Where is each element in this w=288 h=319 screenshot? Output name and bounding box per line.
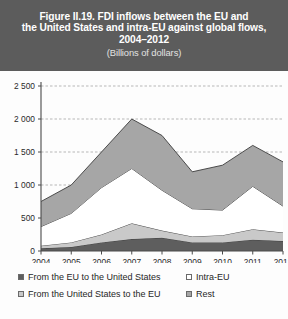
series-areas-group xyxy=(41,119,283,251)
legend-label-from-eu-to-us: From the EU to the United States xyxy=(28,272,161,282)
x-tick-2011: 2011 xyxy=(244,257,262,263)
x-tick-2010: 2010 xyxy=(213,257,232,263)
legend-item-intra-eu[interactable]: Intra-EU xyxy=(186,272,230,282)
y-tick-2500: 2 500 xyxy=(14,81,35,91)
y-tick-1000: 1 000 xyxy=(14,180,35,190)
legend-swatch-from-eu-to-us xyxy=(18,274,24,280)
chart-legend: From the EU to the United States Intra-E… xyxy=(0,266,288,306)
legend-item-rest[interactable]: Rest xyxy=(186,289,215,299)
chart-plot-area: 05001 0001 5002 0002 500 200420052006200… xyxy=(0,71,288,263)
x-tick-2004: 2004 xyxy=(32,257,51,263)
y-axis-tick-labels: 05001 0001 5002 0002 500 xyxy=(14,81,35,256)
figure-subtitle: (Billions of dollars) xyxy=(107,47,182,60)
legend-label-intra-eu: Intra-EU xyxy=(196,272,230,282)
x-axis-tick-labels: 200420052006200720082009201020112012 xyxy=(32,257,288,263)
figure-title-line-3: 2004–2012 xyxy=(119,34,169,46)
legend-swatch-intra-eu xyxy=(186,274,192,280)
x-tick-2006: 2006 xyxy=(92,257,111,263)
y-tick-1500: 1 500 xyxy=(14,147,35,157)
legend-row-1: From the EU to the United States Intra-E… xyxy=(18,268,274,285)
legend-swatch-rest xyxy=(186,291,192,297)
figure-container: Figure II.19. FDI inflows between the EU… xyxy=(0,0,288,319)
x-tick-2012: 2012 xyxy=(274,257,288,263)
y-tick-2000: 2 000 xyxy=(14,114,35,124)
legend-row-2: From the United States to the EU Rest xyxy=(18,285,274,302)
x-tick-2007: 2007 xyxy=(122,257,141,263)
y-tick-0: 0 xyxy=(30,246,35,256)
legend-label-rest: Rest xyxy=(196,289,215,299)
legend-item-from-us-to-eu[interactable]: From the United States to the EU xyxy=(18,289,186,299)
stacked-area-chart: 05001 0001 5002 0002 500 200420052006200… xyxy=(0,71,288,263)
legend-swatch-from-us-to-eu xyxy=(18,291,24,297)
legend-label-from-us-to-eu: From the United States to the EU xyxy=(28,289,161,299)
x-tick-2009: 2009 xyxy=(183,257,202,263)
x-tick-2005: 2005 xyxy=(62,257,81,263)
figure-title-banner: Figure II.19. FDI inflows between the EU… xyxy=(0,0,288,71)
figure-title-line-1: Figure II.19. FDI inflows between the EU… xyxy=(39,11,248,23)
x-tick-2008: 2008 xyxy=(153,257,172,263)
figure-title-line-2: the United States and intra-EU against g… xyxy=(22,22,266,34)
y-tick-500: 500 xyxy=(21,213,35,223)
legend-item-from-eu-to-us[interactable]: From the EU to the United States xyxy=(18,272,186,282)
